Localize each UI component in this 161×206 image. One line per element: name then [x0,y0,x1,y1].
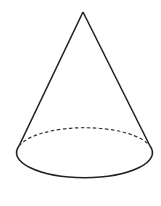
cone-left-side [19,12,83,146]
cone-diagram [0,0,161,206]
cone-base-front-edge [17,146,153,178]
cone-right-side [83,12,150,146]
cone-base-hidden-back-edge [19,128,150,146]
